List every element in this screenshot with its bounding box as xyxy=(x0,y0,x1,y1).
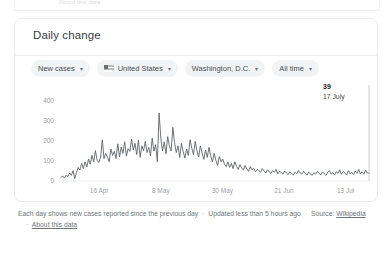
filter-chip-row: New cases ▾ United States ▾ Washington, … xyxy=(31,60,319,77)
footer-description: Each day shows new cases reported since … xyxy=(18,210,198,217)
chip-metric-label: New cases xyxy=(38,64,75,73)
us-flag-icon xyxy=(104,65,114,72)
chip-timerange-label: All time xyxy=(279,64,304,73)
x-axis-tick-label: 16 Apr xyxy=(90,187,110,195)
footer-source-label: Source: xyxy=(311,210,334,217)
chip-region-selector[interactable]: Washington, D.C. ▾ xyxy=(185,60,266,77)
chip-country-label: United States xyxy=(118,64,163,73)
footer-separator: · xyxy=(303,210,309,217)
daily-change-card: Daily change New cases ▾ United States ▾… xyxy=(14,18,378,202)
tooltip-date: 17 July xyxy=(323,93,345,101)
top-clipped-strip: About this data xyxy=(14,0,380,11)
chevron-down-icon: ▾ xyxy=(309,65,312,72)
series-line-new-cases xyxy=(61,113,369,179)
y-axis-tick-label: 300 xyxy=(43,117,54,124)
footer-separator: · xyxy=(200,210,206,217)
chevron-down-icon: ▾ xyxy=(168,65,171,72)
title-divider xyxy=(15,55,377,56)
top-partial-link[interactable]: About this data xyxy=(59,0,101,5)
page-title: Daily change xyxy=(33,29,101,41)
chip-region-label: Washington, D.C. xyxy=(192,64,251,73)
chip-country-selector[interactable]: United States ▾ xyxy=(97,60,178,77)
footer-source-link[interactable]: Wikipedia xyxy=(336,210,365,217)
chart-footer: Each day shows new cases reported since … xyxy=(18,209,378,230)
footer-separator: · xyxy=(24,221,30,228)
x-axis-tick-label: 21 Jun xyxy=(274,187,294,194)
y-axis-tick-label: 100 xyxy=(43,157,54,164)
tooltip-value: 39 xyxy=(323,83,331,90)
daily-change-line-chart[interactable]: 010020030040016 Apr8 May30 May21 Jun13 J… xyxy=(15,81,379,203)
chart-container[interactable]: 010020030040016 Apr8 May30 May21 Jun13 J… xyxy=(15,81,379,203)
y-axis-tick-label: 400 xyxy=(43,97,54,104)
chip-metric-selector[interactable]: New cases ▾ xyxy=(31,60,90,77)
x-axis-tick-label: 8 May xyxy=(152,187,170,195)
footer-about-link[interactable]: About this data xyxy=(32,221,77,228)
x-axis-tick-label: 13 Jul xyxy=(337,187,355,194)
y-axis-tick-label: 0 xyxy=(50,177,54,184)
chip-timerange-selector[interactable]: All time ▾ xyxy=(272,60,319,77)
y-axis-tick-label: 200 xyxy=(43,137,54,144)
x-axis-tick-label: 30 May xyxy=(212,187,234,195)
chevron-down-icon: ▾ xyxy=(80,65,83,72)
footer-updated: Updated less than 5 hours ago xyxy=(208,210,301,217)
chevron-down-icon: ▾ xyxy=(255,65,258,72)
